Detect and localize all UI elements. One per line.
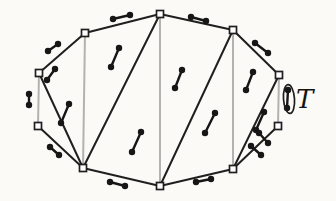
- dumbbell-marker-14: [172, 67, 185, 91]
- dumbbell-marker-3: [26, 91, 32, 108]
- dumbbell-dot: [110, 16, 116, 22]
- dumbbell-dot: [44, 77, 50, 83]
- dumbbell-dot: [252, 40, 258, 46]
- gray-edge-upper-left--bottom-left: [83, 33, 85, 168]
- dumbbell-dot: [107, 179, 113, 185]
- figure-canvas: T: [0, 0, 336, 201]
- edge-bottom--bottom-left: [83, 168, 160, 186]
- edge-right-upper--bottom-right: [233, 75, 279, 169]
- dumbbell-dot: [52, 66, 58, 72]
- vertex-square-upper-left: [82, 30, 89, 37]
- dumbbell-dot: [248, 143, 254, 149]
- dumbbell-dot: [188, 14, 194, 20]
- dumbbell-dot: [208, 176, 214, 182]
- dumbbell-marker-10: [44, 66, 58, 83]
- dumbbell-dot: [179, 67, 185, 73]
- dumbbell-marker-0: [110, 12, 133, 22]
- dumbbell-dot: [193, 179, 199, 185]
- dumbbell-dot: [138, 129, 144, 135]
- dumbbell-dot: [261, 109, 267, 115]
- dumbbell-dot: [129, 149, 135, 155]
- dumbbell-dot: [258, 152, 264, 158]
- dumbbell-dot: [66, 101, 72, 107]
- dumbbell-dot: [203, 18, 209, 24]
- vertex-square-top: [157, 11, 164, 18]
- vertex-squares-layer: [35, 11, 283, 190]
- dumbbell-dot: [26, 91, 32, 97]
- dumbbell-dot: [58, 120, 64, 126]
- dumbbell-bar: [205, 113, 215, 133]
- dumbbell-dot: [202, 130, 208, 136]
- dumbbell-marker-7: [248, 143, 264, 158]
- dumbbell-dot: [55, 41, 61, 47]
- dumbbell-dot: [250, 69, 256, 75]
- vertex-square-right-lower: [275, 123, 282, 130]
- dumbbell-dot: [122, 183, 128, 189]
- vertex-square-bottom-right: [230, 166, 237, 173]
- triangulated-polygon-figure: T: [0, 0, 336, 201]
- dumbbell-dot: [116, 45, 122, 51]
- gray-edge-right-upper--right-lower: [278, 75, 279, 126]
- dumbbell-dot: [265, 140, 271, 146]
- vertex-square-bottom: [157, 183, 164, 190]
- dumbbell-marker-5: [107, 179, 128, 189]
- dumbbell-marker-2: [45, 41, 61, 54]
- edge-upper-right--bottom: [160, 30, 233, 186]
- edge-top--upper-right: [160, 14, 233, 30]
- dumbbell-markers-layer: [26, 12, 291, 189]
- vertex-square-upper-right: [230, 27, 237, 34]
- vertex-square-bottom-left: [80, 165, 87, 172]
- label-T: T: [296, 84, 315, 114]
- dumbbell-dot: [212, 110, 218, 116]
- black-edges-layer: [38, 14, 279, 186]
- dumbbell-bar: [132, 132, 141, 152]
- dumbbell-dot: [47, 144, 53, 150]
- dumbbell-marker-15: [202, 110, 218, 136]
- edge-bottom-left--left-lower: [38, 126, 83, 168]
- dumbbell-dot: [127, 12, 133, 18]
- dumbbell-dot: [45, 48, 51, 54]
- vertex-square-left-upper: [36, 70, 43, 77]
- dumbbell-dot: [172, 85, 178, 91]
- gray-edge-left-lower--left-upper: [38, 73, 39, 126]
- dumbbell-dot: [265, 50, 271, 56]
- dumbbell-dot: [256, 130, 262, 136]
- dumbbell-marker-16: [243, 69, 256, 93]
- dumbbell-dot: [108, 64, 114, 70]
- edge-upper-right--right-upper: [233, 30, 279, 75]
- dumbbell-marker-12: [108, 45, 122, 70]
- dumbbell-marker-9: [252, 40, 271, 56]
- dumbbell-dot: [56, 152, 62, 158]
- vertex-square-right-upper: [276, 72, 283, 79]
- dumbbell-marker-13: [129, 129, 144, 155]
- dumbbell-marker-11: [58, 101, 72, 126]
- dumbbell-dot: [26, 102, 32, 108]
- dumbbell-dot: [243, 87, 249, 93]
- edge-top--bottom-left: [83, 14, 160, 168]
- vertex-square-left-lower: [35, 123, 42, 130]
